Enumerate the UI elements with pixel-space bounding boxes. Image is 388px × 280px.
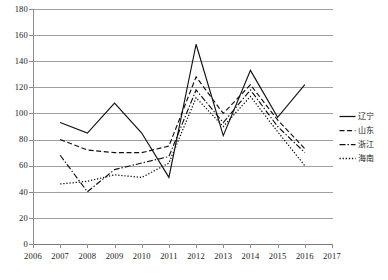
- y-axis-tick-mark: [29, 113, 33, 114]
- y-axis-tick-mark: [29, 9, 33, 10]
- legend-item-2[interactable]: 山东: [339, 123, 388, 137]
- x-axis-tick-mark: [60, 244, 61, 248]
- legend-item-3[interactable]: 浙江: [339, 137, 388, 151]
- y-axis-tick-label: 40: [0, 188, 28, 197]
- gridline: [34, 35, 333, 36]
- x-axis-tick-mark: [332, 244, 333, 248]
- y-axis-tick-label: 140: [0, 57, 28, 66]
- x-axis-tick-label: 2009: [106, 251, 124, 261]
- y-axis-tick-label: 0: [0, 240, 28, 249]
- y-axis-tick-mark: [29, 166, 33, 167]
- y-axis-tick-mark: [29, 35, 33, 36]
- y-axis-tick-mark: [29, 87, 33, 88]
- x-axis-tick-label: 2017: [323, 251, 341, 261]
- x-axis-tick-mark: [223, 244, 224, 248]
- dashed-line-icon: [339, 126, 356, 135]
- legend-label: 山东: [358, 125, 374, 136]
- legend-item-1[interactable]: 辽宁: [339, 109, 388, 123]
- y-axis-tick-mark: [29, 140, 33, 141]
- x-axis-tick-mark: [87, 244, 88, 248]
- y-axis-tick-label: 60: [0, 161, 28, 170]
- y-axis-tick-label: 160: [0, 31, 28, 40]
- legend-item-4[interactable]: 海南: [339, 151, 388, 165]
- x-axis-tick-label: 2006: [24, 251, 42, 261]
- x-axis-tick-label: 2014: [242, 251, 260, 261]
- y-axis-tick-label: 80: [0, 135, 28, 144]
- y-axis-tick-mark: [29, 61, 33, 62]
- gridline: [34, 113, 333, 114]
- gridline: [34, 87, 333, 88]
- y-axis-tick-label: 180: [0, 5, 28, 14]
- x-axis-tick-mark: [33, 244, 34, 248]
- dash-dot-line-icon: [339, 140, 356, 149]
- x-axis-tick-mark: [250, 244, 251, 248]
- plot-area: [33, 9, 332, 244]
- legend-label: 浙江: [358, 139, 374, 150]
- gridline: [34, 166, 333, 167]
- x-axis-tick-label: 2015: [269, 251, 287, 261]
- x-axis-tick-label: 2013: [214, 251, 232, 261]
- x-axis-tick-mark: [305, 244, 306, 248]
- x-axis-tick-mark: [196, 244, 197, 248]
- gridline: [34, 61, 333, 62]
- x-axis-tick-label: 2012: [187, 251, 205, 261]
- x-axis-tick-label: 2016: [296, 251, 314, 261]
- y-axis-tick-label: 120: [0, 83, 28, 92]
- gridline: [34, 218, 333, 219]
- gridline: [34, 9, 333, 10]
- line-chart: 020406080100120140160180 200620072008200…: [0, 0, 388, 280]
- x-axis-tick-mark: [115, 244, 116, 248]
- x-axis-tick-label: 2010: [133, 251, 151, 261]
- y-axis-tick-mark: [29, 192, 33, 193]
- x-axis-labels: 2006200720082009201020112012201320142015…: [0, 251, 388, 267]
- gridline: [34, 192, 333, 193]
- x-axis-tick-mark: [169, 244, 170, 248]
- chart-legend: 辽宁山东浙江海南: [339, 109, 388, 165]
- x-axis-tick-mark: [142, 244, 143, 248]
- y-axis-labels: 020406080100120140160180: [0, 0, 31, 280]
- x-axis-line: [33, 244, 332, 245]
- y-axis-tick-label: 100: [0, 109, 28, 118]
- gridline: [34, 140, 333, 141]
- x-axis-tick-label: 2007: [51, 251, 69, 261]
- y-axis-tick-label: 20: [0, 214, 28, 223]
- x-axis-tick-label: 2008: [78, 251, 96, 261]
- y-axis-tick-mark: [29, 218, 33, 219]
- dotted-line-icon: [339, 154, 356, 163]
- legend-label: 海南: [358, 153, 374, 164]
- x-axis-tick-label: 2011: [160, 251, 178, 261]
- x-axis-tick-mark: [278, 244, 279, 248]
- solid-line-icon: [339, 112, 356, 121]
- legend-label: 辽宁: [358, 111, 374, 122]
